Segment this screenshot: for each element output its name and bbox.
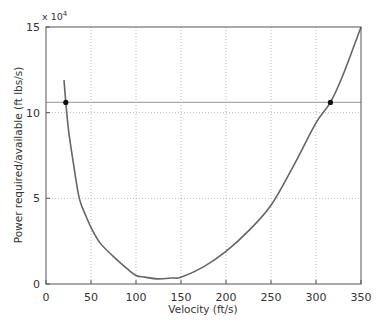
grid-lines — [46, 27, 361, 284]
y-multiplier: x 104 — [42, 10, 68, 22]
x-tick-label: 300 — [306, 291, 327, 304]
y-tick-label: 0 — [33, 278, 40, 291]
plot-frame — [46, 27, 361, 284]
intersection-marker — [63, 100, 68, 105]
x-tick-label: 350 — [351, 291, 372, 304]
y-tick-label: 5 — [33, 192, 40, 205]
y-axis-label: Power required/available (ft lbs/s) — [12, 67, 24, 244]
x-tick-label: 250 — [261, 291, 282, 304]
intersection-marker — [328, 100, 333, 105]
x-axis-label: Velocity (ft/s) — [168, 303, 237, 315]
y-tick-label: 15 — [26, 21, 40, 34]
power-required-curve — [64, 27, 361, 279]
power-curve-chart: 050100150200250300350051015 x 104 Veloci… — [0, 0, 380, 332]
axis-ticks: 050100150200250300350051015 — [26, 21, 372, 304]
x-tick-label: 100 — [126, 291, 147, 304]
data-series — [46, 27, 361, 279]
y-tick-label: 10 — [26, 107, 40, 120]
x-tick-label: 50 — [84, 291, 98, 304]
x-tick-label: 0 — [43, 291, 50, 304]
